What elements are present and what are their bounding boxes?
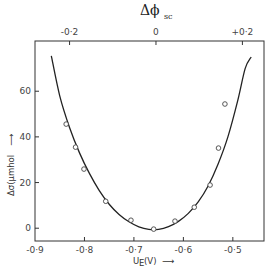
x-tick-label: -0·7 <box>125 245 143 255</box>
x-tick-label: -0·6 <box>175 245 193 255</box>
top-tick-label: -0·2 <box>61 27 79 37</box>
x-tick-label: -0·8 <box>76 245 94 255</box>
data-point <box>216 146 221 151</box>
data-point <box>129 218 134 223</box>
y-tick-label: 40 <box>20 132 32 142</box>
data-point <box>208 183 213 188</box>
data-point <box>64 122 69 127</box>
y-axis-label-text: Δσ(μmhol <box>6 155 16 196</box>
top-tick-label: +0·2 <box>231 27 253 37</box>
top-tick-label: 0 <box>153 27 159 37</box>
fit-curve <box>51 56 251 230</box>
x-tick-label: -0·9 <box>26 245 44 255</box>
y-tick-label: 0 <box>25 223 31 233</box>
chart: Δϕ sc -0·20+0·2 -0·9-0·8-0·7-0·6-0·5 020… <box>0 0 273 269</box>
y-tick-label: 20 <box>20 178 32 188</box>
data-point <box>103 199 108 204</box>
x-tick-label: -0·5 <box>224 245 242 255</box>
y-axis-label: Δσ(μmhol ⟶ <box>6 134 16 196</box>
y-axis-ticks: 0204060 <box>20 86 39 233</box>
x-axis-label-arrow: ⟶ <box>162 256 174 266</box>
data-point <box>173 219 178 224</box>
data-point <box>192 205 197 210</box>
data-point <box>73 145 78 150</box>
y-tick-label: 60 <box>20 86 32 96</box>
top-axis-title: Δϕ sc <box>140 2 173 21</box>
top-axis-title-main: Δϕ <box>140 2 160 18</box>
y-axis-label-arrow: ⟶ <box>6 134 16 146</box>
x-axis-ticks: -0·9-0·8-0·7-0·6-0·5 <box>26 237 241 255</box>
plot-frame <box>35 41 264 241</box>
data-point <box>223 102 228 107</box>
data-point <box>82 167 87 172</box>
series-layer <box>51 56 251 232</box>
x-axis-label-unit: (V) <box>144 256 156 266</box>
top-axis-ticks: -0·20+0·2 <box>61 27 254 45</box>
top-axis-title-sub: sc <box>164 12 173 21</box>
x-axis-label: U E (V) ⟶ <box>133 256 174 268</box>
data-point <box>151 227 156 232</box>
